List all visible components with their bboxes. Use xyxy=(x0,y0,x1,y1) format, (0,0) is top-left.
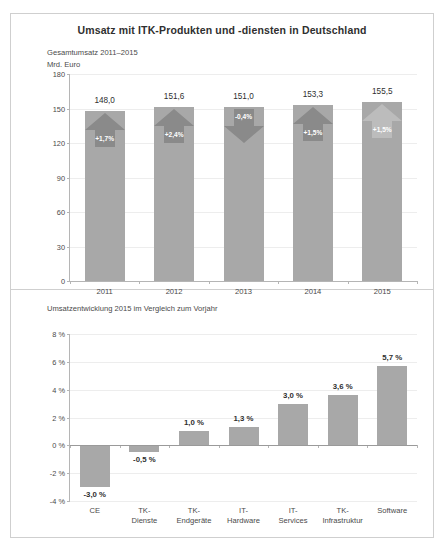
y-axis-tick-label-top: 30 xyxy=(57,242,65,251)
y-tickmark-bottom xyxy=(67,334,70,335)
bottom-panel-subtitle: Umsatzentwicklung 2015 im Vergleich zum … xyxy=(47,304,218,313)
growth-pct-label-2011: +1,7% xyxy=(85,135,125,142)
y-tickmark-top xyxy=(67,109,70,110)
bar-it--services xyxy=(278,404,308,446)
y-axis-tick-label-bottom: -2 % xyxy=(50,469,65,478)
x-tickmark-top xyxy=(70,281,71,284)
bar-value-label-software: 5,7 % xyxy=(382,353,402,362)
y-tickmark-top xyxy=(67,247,70,248)
y-axis-tick-label-top: 90 xyxy=(57,173,65,182)
y-tickmark-top xyxy=(67,74,70,75)
panel-umsatzentwicklung: Umsatzentwicklung 2015 im Vergleich zum … xyxy=(11,290,433,538)
x-tickmark-top xyxy=(278,281,279,284)
bar-tk--endgeräte xyxy=(179,431,209,445)
bar-value-label-tk--infrastruktur: 3,6 % xyxy=(333,382,353,391)
x-tickmark-top xyxy=(209,281,210,284)
chart-figure: Umsatz mit ITK-Produkten und -diensten i… xyxy=(10,13,434,538)
y-axis-tick-label-bottom: 8 % xyxy=(52,330,65,339)
bar-tk--infrastruktur xyxy=(328,395,358,445)
x-tickmark-bottom xyxy=(417,445,418,448)
gridline-bottom xyxy=(70,362,417,363)
top-panel-subtitle: Gesamtumsatz 2011–2015 xyxy=(47,48,138,57)
bar-value-label-2013: 151,0 xyxy=(233,92,254,101)
y-tickmark-bottom xyxy=(67,418,70,419)
gridline-bottom xyxy=(70,390,417,391)
growth-arrow-2012: +2,4% xyxy=(154,109,194,143)
x-axis-label-software: Software xyxy=(358,506,426,516)
bar-it--hardware xyxy=(229,427,259,445)
gridline-bottom xyxy=(70,473,417,474)
x-axis-line-bottom xyxy=(70,445,417,446)
y-tickmark-bottom xyxy=(67,390,70,391)
y-axis-tick-label-bottom: 4 % xyxy=(52,385,65,394)
bar-value-label-2015: 155,5 xyxy=(372,87,393,96)
bar-value-label-tk--dienste: -0,5 % xyxy=(133,455,156,464)
plot-area-top: 0306090120150180148,0+1,7%2011151,6+2,4%… xyxy=(69,74,417,282)
bar-ce xyxy=(80,445,110,487)
y-axis-tick-label-bottom: -4 % xyxy=(50,497,65,506)
y-axis-tick-label-top: 0 xyxy=(61,277,65,286)
growth-arrow-2015: +1,5% xyxy=(362,104,402,138)
y-axis-tick-label-top: 120 xyxy=(53,139,65,148)
y-tickmark-top xyxy=(67,143,70,144)
bar-value-label-tk--endgeräte: 1,0 % xyxy=(184,418,204,427)
x-tickmark-top xyxy=(139,281,140,284)
bar-value-label-it--hardware: 1,3 % xyxy=(234,414,254,423)
panel-gesamtumsatz: Umsatz mit ITK-Produkten und -diensten i… xyxy=(11,14,433,290)
gridline-top xyxy=(70,74,417,75)
growth-arrow-2014: +1,5% xyxy=(293,107,333,141)
growth-arrow-2013: -0,4% xyxy=(224,109,264,143)
gridline-bottom xyxy=(70,334,417,335)
page-title: Umsatz mit ITK-Produkten und -diensten i… xyxy=(11,24,433,36)
y-axis-tick-label-top: 60 xyxy=(57,208,65,217)
bar-software xyxy=(377,366,407,445)
y-axis-tick-label-bottom: 6 % xyxy=(52,357,65,366)
bar-value-label-it--services: 3,0 % xyxy=(283,391,303,400)
growth-pct-label-2013: -0,4% xyxy=(224,113,264,120)
y-axis-tick-label-top: 180 xyxy=(53,70,65,79)
y-tickmark-top xyxy=(67,178,70,179)
y-tickmark-top xyxy=(67,212,70,213)
y-axis-tick-label-bottom: 2 % xyxy=(52,413,65,422)
y-axis-tick-label-bottom: 0 % xyxy=(52,441,65,450)
y-tickmark-bottom xyxy=(67,501,70,502)
gridline-bottom xyxy=(70,501,417,502)
y-tickmark-bottom xyxy=(67,473,70,474)
y-tickmark-bottom xyxy=(67,362,70,363)
bar-value-label-2011: 148,0 xyxy=(94,96,115,105)
bar-value-label-2014: 153,3 xyxy=(303,90,324,99)
growth-arrow-2011: +1,7% xyxy=(85,113,125,147)
x-tickmark-top xyxy=(348,281,349,284)
plot-area-bottom: 8 %6 %4 %2 %0 %-2 %-4 %-3,0 %CE-0,5 %TK-… xyxy=(69,334,417,501)
x-tickmark-top xyxy=(417,281,418,284)
bar-value-label-ce: -3,0 % xyxy=(84,490,107,499)
growth-pct-label-2015: +1,5% xyxy=(362,126,402,133)
bar-tk--dienste xyxy=(129,445,159,452)
y-axis-tick-label-top: 150 xyxy=(53,104,65,113)
growth-pct-label-2014: +1,5% xyxy=(293,129,333,136)
top-panel-unit-label: Mrd. Euro xyxy=(47,60,80,69)
growth-pct-label-2012: +2,4% xyxy=(154,131,194,138)
bar-value-label-2012: 151,6 xyxy=(164,92,185,101)
